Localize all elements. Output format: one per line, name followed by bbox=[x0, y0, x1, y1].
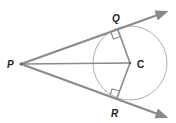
segment-pc bbox=[21, 63, 130, 64]
tangent-ray-pr bbox=[21, 64, 166, 117]
label-p: P bbox=[7, 59, 14, 70]
radius-cr bbox=[117, 63, 130, 98]
tangent-diagram: P Q C R bbox=[0, 0, 176, 123]
label-c: C bbox=[137, 59, 144, 70]
point-c bbox=[129, 62, 132, 65]
radius-cq bbox=[118, 30, 130, 63]
label-r: R bbox=[111, 108, 119, 119]
point-p bbox=[20, 63, 23, 66]
label-q: Q bbox=[112, 13, 120, 24]
